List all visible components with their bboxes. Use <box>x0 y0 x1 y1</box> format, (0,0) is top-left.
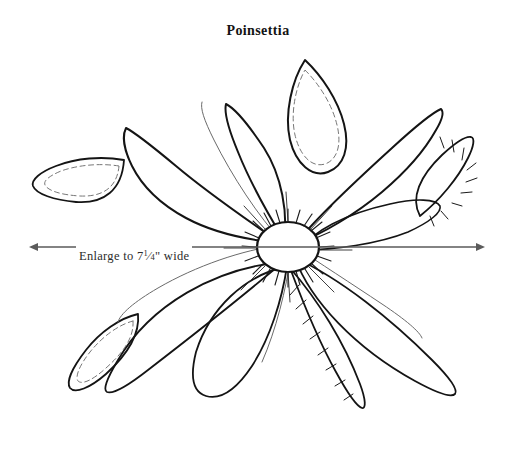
dimension-fraction: 1⁄4 <box>143 249 155 263</box>
petal-lower-left-large <box>105 262 283 392</box>
poinsettia-pattern-drawing <box>0 0 516 451</box>
petal-upper-middle-left-large <box>226 104 286 240</box>
dimension-label: Enlarge to 71⁄4" wide <box>76 246 192 265</box>
petal-lower-right-large <box>295 258 456 395</box>
petal-bottom-center-large <box>193 266 287 397</box>
dimension-label-suffix: " wide <box>155 249 189 263</box>
petal-upper-left-dashed-leaf <box>33 158 124 202</box>
petal-top-center-dashed <box>288 60 346 173</box>
pattern-page: Poinsettia <box>0 0 516 451</box>
petal-upper-left-large <box>124 128 280 243</box>
petal-upper-right-large <box>296 109 442 244</box>
petal-lower-left-dashed-leaf <box>69 314 138 390</box>
petal-right-outer-large <box>300 200 440 250</box>
petal-right-hatched-leaf <box>416 137 477 226</box>
dimension-label-prefix: Enlarge to 7 <box>79 249 143 263</box>
